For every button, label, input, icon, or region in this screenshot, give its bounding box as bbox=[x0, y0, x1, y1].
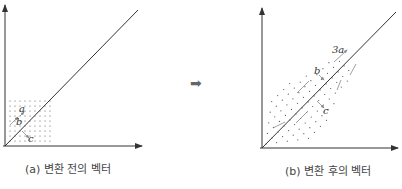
caption-left: (a) 변환 전의 벡터 bbox=[25, 160, 111, 176]
vector-left-1 bbox=[297, 81, 309, 93]
left-panel-diagram: a b c bbox=[3, 5, 142, 146]
label-b: b bbox=[16, 116, 22, 127]
label-b: b bbox=[314, 65, 320, 76]
label-a: a bbox=[19, 103, 25, 114]
right-panel-diagram: 3a b c bbox=[260, 8, 398, 148]
label-c: c bbox=[323, 105, 329, 116]
vector-left-3 bbox=[296, 111, 308, 123]
vector-right-1 bbox=[337, 80, 341, 90]
vector-right-2 bbox=[350, 64, 356, 75]
label-c: c bbox=[28, 133, 34, 144]
caption-right: (b) 변환 후의 벡터 bbox=[285, 162, 371, 178]
diagonal-line bbox=[262, 12, 396, 148]
transform-arrow-icon: ➡ bbox=[190, 75, 202, 91]
label-3a: 3a bbox=[332, 44, 344, 55]
